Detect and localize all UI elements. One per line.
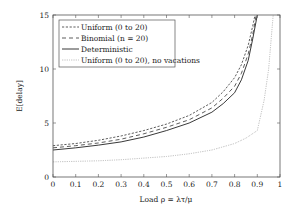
x-tick-label: 0.6 bbox=[183, 180, 195, 189]
y-axis-label: E[delay] bbox=[15, 80, 24, 112]
x-tick-label: 0.3 bbox=[115, 180, 127, 189]
legend-label: Uniform (0 to 20), no vacations bbox=[81, 56, 200, 65]
y-tick-label: 5 bbox=[44, 119, 49, 128]
line-chart: 00.10.20.30.40.50.60.70.80.91 051015 Loa… bbox=[0, 0, 296, 211]
x-tick-label: 0.1 bbox=[70, 180, 82, 189]
legend: Uniform (0 to 20)Binomial (n = 20)Determ… bbox=[59, 20, 200, 67]
x-tick-label: 0.8 bbox=[229, 180, 241, 189]
x-tick-label: 0.9 bbox=[251, 180, 263, 189]
x-axis-label: Load ρ = λτ/μ bbox=[140, 195, 193, 204]
legend-label: Binomial (n = 20) bbox=[81, 34, 148, 43]
y-tick-label: 10 bbox=[39, 65, 49, 74]
legend-label: Uniform (0 to 20) bbox=[81, 23, 147, 32]
x-tick-label: 0.5 bbox=[161, 180, 173, 189]
x-tick-label: 0.2 bbox=[92, 180, 104, 189]
x-tick-label: 0.4 bbox=[138, 180, 150, 189]
x-tick-label: 0.7 bbox=[206, 180, 218, 189]
y-tick-label: 0 bbox=[44, 173, 49, 182]
x-tick-label: 0 bbox=[51, 180, 56, 189]
x-tick-label: 1 bbox=[278, 180, 283, 189]
y-tick-label: 15 bbox=[39, 11, 49, 20]
legend-label: Deterministic bbox=[81, 45, 133, 54]
